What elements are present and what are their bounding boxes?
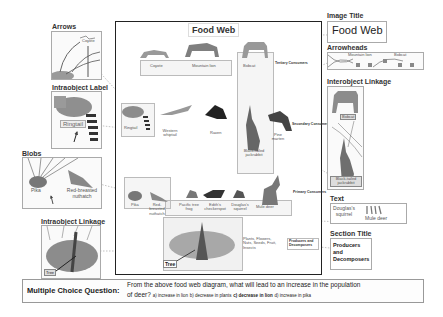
producer-note: Plants, Flowers, Nuts, Seeds, Fruit, Ins… — [243, 237, 277, 250]
image-title-sample: Food Web — [332, 24, 383, 36]
tree-ecosystem-icon — [0, 0, 443, 317]
interobject-linkage-panel: Bobcat Black-tailed jackrabbit — [327, 86, 364, 190]
arrowheads-panel: Mountain lion Bobcat — [327, 52, 424, 70]
section-title-panel: Producers and Decomposers — [330, 238, 372, 270]
mcq-label: Multiple Choice Question: — [27, 286, 120, 295]
arrowheads-illustration-icon — [328, 53, 423, 69]
mcq-panel: Multiple Choice Question: From the above… — [22, 279, 424, 303]
arrowheads-panel-title: Arrowheads — [327, 44, 367, 51]
mcq-option-b[interactable]: b) decrease in plants — [190, 293, 232, 298]
text-panel: Douglas's squirrel Mule deer — [330, 203, 407, 224]
producers-decomposers-label: Producers and Decomposers — [287, 238, 319, 250]
mcq-option-c[interactable]: c) decrease in lion — [233, 293, 272, 298]
arrowheads-sample-lion: Mountain lion — [348, 53, 372, 57]
tree-label: Tree — [163, 260, 177, 268]
arrowheads-sample-bobcat: Bobcat — [394, 53, 406, 57]
bobcat-jackrabbit-link-icon — [328, 87, 363, 189]
image-title-panel: Food Web — [327, 21, 387, 43]
interobject-bobcat-label: Bobcat — [340, 114, 356, 120]
section-title-sample: Producers and Decomposers — [333, 242, 369, 263]
text-sample-deer: Mule deer — [365, 216, 387, 222]
text-panel-title: Text — [330, 195, 344, 202]
mcq-option-d[interactable]: d) increase in pika — [274, 293, 311, 298]
interobject-jackrabbit-label: Black-tailed jackrabbit — [330, 176, 362, 187]
mcq-question-line1: From the above food web diagram, what wi… — [127, 281, 360, 288]
interobject-linkage-panel-title: Interobject Linkage — [327, 78, 391, 85]
mcq-option-a[interactable]: a) increase in lion — [153, 293, 188, 298]
mcq-question-deer: of deer? — [127, 291, 151, 298]
image-title-panel-title: Image Title — [327, 12, 363, 19]
mcq-question-line2: of deer? a) increase in lion b) decrease… — [127, 291, 311, 298]
section-title-panel-title: Section Title — [330, 230, 372, 237]
